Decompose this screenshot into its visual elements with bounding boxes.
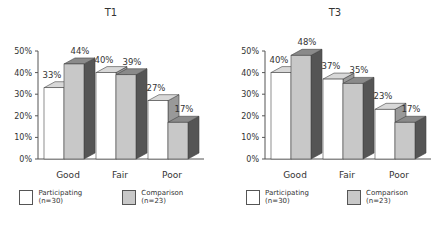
legend-label-participating: Participating (n=30) (265, 189, 331, 205)
value-label: 17% (402, 104, 421, 114)
chart-t3: T3 0%10%20%30%40%50%40%48%Good37%35%Fair… (223, 0, 446, 227)
y-tick-label: 50% (14, 47, 32, 56)
value-label: 35% (350, 65, 369, 75)
bar-comparison: 39% (116, 57, 147, 159)
value-label: 44% (71, 46, 90, 56)
bar-comparison: 48% (291, 37, 322, 159)
legend: Participating (n=30) Comparison (n=23) (246, 187, 446, 207)
bar-plot: 0%10%20%30%40%50%33%44%Good40%39%Fair27%… (0, 0, 223, 185)
category-label: Good (283, 170, 307, 180)
category-label: Fair (112, 170, 128, 180)
y-tick-label: 40% (14, 69, 32, 78)
legend-swatch-participating (246, 190, 260, 205)
y-tick-label: 50% (241, 47, 259, 56)
category-label: Good (56, 170, 80, 180)
y-tick-label: 30% (14, 90, 32, 99)
bar-plot: 0%10%20%30%40%50%40%48%Good37%35%Fair23%… (223, 0, 446, 185)
legend: Participating (n=30) Comparison (n=23) (19, 187, 223, 207)
y-tick-label: 0% (246, 155, 259, 164)
y-tick-label: 20% (14, 112, 32, 121)
value-label: 40% (95, 55, 114, 65)
legend-swatch-comparison (347, 190, 361, 205)
value-label: 17% (175, 104, 194, 114)
value-label: 23% (374, 91, 393, 101)
y-tick-label: 20% (241, 112, 259, 121)
value-label: 27% (147, 83, 166, 93)
legend-label-comparison: Comparison (n=23) (366, 189, 430, 205)
y-tick-label: 10% (241, 133, 259, 142)
value-label: 33% (43, 70, 62, 80)
legend-label-participating: Participating (n=30) (38, 189, 106, 205)
legend-swatch-comparison (122, 190, 136, 205)
y-tick-label: 40% (241, 69, 259, 78)
category-label: Poor (162, 170, 182, 180)
value-label: 40% (270, 55, 289, 65)
category-label: Fair (339, 170, 355, 180)
value-label: 39% (123, 57, 142, 67)
bar-comparison: 44% (64, 46, 95, 159)
y-tick-label: 0% (19, 155, 32, 164)
y-tick-label: 30% (241, 90, 259, 99)
legend-label-comparison: Comparison (n=23) (141, 189, 207, 205)
chart-t1: T1 0%10%20%30%40%50%33%44%Good40%39%Fair… (0, 0, 223, 227)
y-tick-label: 10% (14, 133, 32, 142)
value-label: 48% (298, 37, 317, 47)
category-label: Poor (389, 170, 409, 180)
legend-swatch-participating (19, 190, 33, 205)
value-label: 37% (322, 61, 341, 71)
